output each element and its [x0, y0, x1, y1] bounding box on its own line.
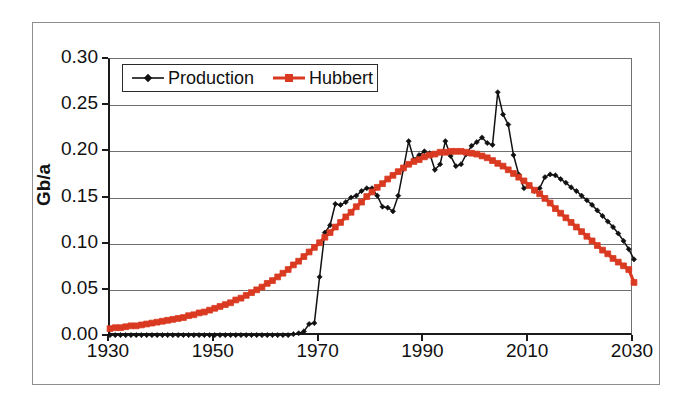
x-tick-label: 1970 [278, 340, 358, 362]
data-point-marker [291, 332, 296, 337]
data-point-marker [443, 139, 448, 144]
data-point-marker [333, 201, 338, 206]
diamond-marker-icon [131, 70, 165, 86]
data-point-marker [626, 267, 632, 273]
x-tick-label: 1930 [68, 340, 148, 362]
data-point-marker [511, 152, 516, 157]
data-point-marker [458, 162, 463, 167]
series-line [110, 92, 634, 335]
x-tick-label: 2030 [592, 340, 672, 362]
data-point-marker [348, 209, 354, 215]
data-point-marker [317, 240, 323, 246]
data-point-marker [327, 230, 333, 236]
data-point-marker [296, 331, 301, 336]
square-marker-icon [272, 70, 306, 86]
data-point-marker [548, 172, 553, 177]
series-production [107, 90, 636, 338]
x-tick-label: 1950 [173, 340, 253, 362]
legend-label: Production [168, 68, 254, 89]
data-point-marker [317, 274, 322, 279]
figure-root: Gb/a 0.000.050.100.150.200.250.30 193019… [0, 0, 684, 405]
data-point-marker [364, 186, 369, 191]
data-point-marker [547, 200, 553, 206]
data-point-marker [500, 112, 505, 117]
data-point-marker [542, 175, 547, 180]
data-point-marker [490, 142, 495, 147]
data-point-marker [495, 90, 500, 95]
legend-entry-hubbert[interactable]: Hubbert [272, 68, 373, 89]
legend-label: Hubbert [309, 68, 373, 89]
chart-series-canvas [110, 59, 634, 336]
x-tick-label: 2010 [487, 340, 567, 362]
chart-legend: ProductionHubbert [122, 64, 378, 92]
data-point-marker [396, 193, 401, 198]
data-point-marker [359, 199, 365, 205]
data-point-marker [537, 186, 542, 191]
plot-area [108, 58, 632, 335]
data-point-marker [338, 220, 344, 226]
data-point-marker [380, 204, 385, 209]
data-point-marker [406, 139, 411, 144]
legend-entry-production[interactable]: Production [131, 68, 254, 89]
data-point-marker [338, 202, 343, 207]
data-point-marker [312, 320, 317, 325]
data-point-marker [453, 164, 458, 169]
data-point-marker [631, 280, 637, 286]
data-point-marker [506, 122, 511, 127]
data-point-marker [521, 186, 526, 191]
x-tick-label: 1990 [382, 340, 462, 362]
